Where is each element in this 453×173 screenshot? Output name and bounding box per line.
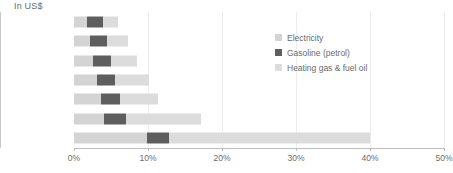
bar-segment-gasoline-petrol (87, 16, 103, 27)
x-tick-label: 30% (287, 153, 304, 163)
stacked-bar (74, 74, 149, 85)
bar-segment-electricity (74, 16, 87, 27)
x-tick-label: 50% (435, 153, 452, 163)
bar-segment-electricity (74, 55, 93, 66)
y-axis-line (0, 12, 1, 148)
x-tick-label: 0% (68, 153, 80, 163)
bar-segment-heating-gas-fuel-oil (115, 74, 149, 85)
bar-segment-electricity (74, 133, 147, 144)
x-tick-mark (148, 148, 149, 151)
x-tick-mark (370, 148, 371, 151)
x-axis-line (74, 148, 444, 149)
legend-label: Gasoline (petrol) (287, 48, 350, 58)
stacked-bar-chart: In US$ 0%10%20%30%40%50% >120k100k-119k8… (0, 0, 453, 173)
bar-segment-gasoline-petrol (104, 113, 125, 124)
chart-row: <20k (74, 129, 444, 148)
bar-segment-electricity (74, 113, 104, 124)
bar-segment-heating-gas-fuel-oil (103, 16, 119, 27)
stacked-bar (74, 133, 370, 144)
bar-segment-heating-gas-fuel-oil (107, 36, 128, 47)
bar-segment-heating-gas-fuel-oil (120, 94, 158, 105)
legend-item[interactable]: Heating gas & fuel oil (275, 61, 367, 74)
bar-segment-electricity (74, 36, 90, 47)
x-tick-label: 40% (361, 153, 378, 163)
bar-segment-gasoline-petrol (147, 133, 170, 144)
x-tick-mark (296, 148, 297, 151)
chart-row: 60k-79k (74, 70, 444, 89)
x-tick-label: 20% (213, 153, 230, 163)
gridline (444, 12, 445, 148)
legend-swatch-icon (275, 49, 282, 56)
bar-segment-electricity (74, 74, 97, 85)
stacked-bar (74, 36, 128, 47)
legend-swatch-icon (275, 34, 282, 41)
bar-segment-heating-gas-fuel-oil (126, 113, 201, 124)
stacked-bar (74, 16, 118, 27)
chart-legend: ElectricityGasoline (petrol)Heating gas … (275, 31, 367, 76)
x-tick-label: 10% (139, 153, 156, 163)
chart-row: 20k-39k (74, 109, 444, 128)
x-tick-mark (444, 148, 445, 151)
bar-segment-gasoline-petrol (90, 36, 107, 47)
chart-row: 100k-119k (74, 31, 444, 50)
bar-segment-heating-gas-fuel-oil (169, 133, 370, 144)
stacked-bar (74, 113, 201, 124)
legend-label: Electricity (287, 33, 323, 43)
bar-segment-electricity (74, 94, 101, 105)
x-tick-mark (74, 148, 75, 151)
legend-swatch-icon (275, 64, 282, 71)
bar-segment-gasoline-petrol (93, 55, 111, 66)
stacked-bar (74, 94, 158, 105)
bar-segment-gasoline-petrol (101, 94, 120, 105)
bar-segment-gasoline-petrol (97, 74, 115, 85)
bar-segment-heating-gas-fuel-oil (111, 55, 137, 66)
x-tick-mark (222, 148, 223, 151)
stacked-bar (74, 55, 137, 66)
y-axis-title: In US$ (14, 1, 43, 11)
plot-area: >120k100k-119k80k-99k60k-79k40k-59k20k-3… (74, 12, 444, 148)
legend-item[interactable]: Electricity (275, 31, 367, 44)
legend-item[interactable]: Gasoline (petrol) (275, 46, 367, 59)
chart-row: 40k-59k (74, 90, 444, 109)
chart-row: 80k-99k (74, 51, 444, 70)
legend-label: Heating gas & fuel oil (287, 63, 367, 73)
chart-row: >120k (74, 12, 444, 31)
